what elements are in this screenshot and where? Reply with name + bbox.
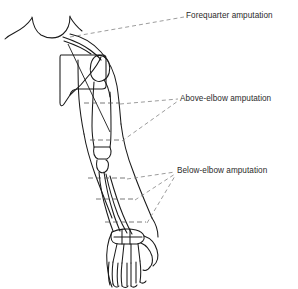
metacarpal-2 — [138, 244, 140, 261]
leader-line-below-elbow-2 — [135, 174, 175, 200]
hand-lateral-outline — [152, 218, 158, 237]
label-below-elbow-amputation: Below-elbow amputation — [177, 167, 267, 175]
phalanx-2 — [140, 261, 141, 282]
amputation-levels-figure: Forequarter amputation Above-elbow amput… — [0, 0, 298, 289]
distal-humerus-condyles — [94, 147, 111, 159]
thumb-medial-outline — [141, 243, 152, 267]
phalanx-5 — [112, 262, 113, 284]
thumb-lateral-outline — [144, 236, 158, 266]
humerus-shaft-lateral — [110, 92, 111, 147]
forequarter-level-line — [68, 44, 110, 132]
anatomy-illustration — [0, 0, 298, 289]
body-outline-group — [5, 16, 158, 288]
label-above-elbow-amputation: Above-elbow amputation — [180, 95, 271, 103]
ulna-lateral-border — [110, 176, 132, 234]
phalanx-4-lateral — [117, 263, 118, 286]
leader-line-forequarter — [70, 17, 184, 37]
leader-line-above-elbow-2 — [122, 101, 178, 141]
neck-outline — [32, 16, 70, 38]
left-trapezius-outline — [5, 18, 32, 39]
phalanx-4 — [121, 263, 122, 286]
ulna-medial-border — [106, 174, 127, 233]
scapula-outline — [60, 55, 106, 106]
finger-tip-3 — [131, 285, 137, 287]
thumb-tip — [143, 267, 150, 270]
metacarpal-4 — [122, 244, 124, 263]
metacarpal-5 — [113, 244, 117, 262]
leader-line-above-elbow-1 — [120, 99, 178, 104]
amputation-level-markers — [68, 44, 146, 222]
forearm-lateral-contour — [121, 124, 152, 218]
right-trapezius-outline — [70, 17, 82, 31]
olecranon-trochlea — [97, 160, 109, 173]
humerus-shaft-medial — [92, 82, 94, 147]
finger-tip-2 — [140, 281, 146, 283]
label-forequarter-amputation: Forequarter amputation — [186, 12, 273, 20]
